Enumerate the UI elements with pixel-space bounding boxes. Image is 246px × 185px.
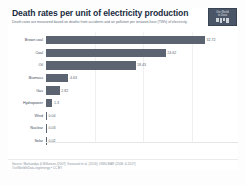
bar-value-label: 2.82	[61, 89, 68, 93]
category-label: Solar	[8, 139, 46, 143]
bar-value-label: 18.43	[137, 63, 146, 67]
category-label: Nuclear	[8, 126, 46, 130]
bar-value-label: 0.03	[48, 126, 55, 130]
chart-header: Death rates per unit of electricity prod…	[8, 8, 238, 32]
source-line-2[interactable]: OurWorldInData.org/energy • CC BY	[8, 166, 238, 170]
screenshot-root: Death rates per unit of electricity prod…	[0, 0, 246, 185]
category-label: Gas	[8, 89, 46, 93]
bar[interactable]	[46, 112, 47, 120]
bar-row[interactable]: Hydropower1.3	[8, 97, 238, 110]
bar[interactable]	[46, 99, 52, 107]
bar-row[interactable]: Oil18.43	[8, 59, 238, 72]
chart-footer: Source: Markandya & Wilkinson (2007); So…	[8, 159, 238, 170]
category-label: Hydropower	[8, 101, 46, 105]
chart-title: Death rates per unit of electricity prod…	[12, 8, 188, 18]
bar[interactable]	[46, 36, 205, 44]
category-label: Wind	[8, 114, 46, 118]
bar-value-label: 24.62	[167, 51, 176, 55]
category-label: Oil	[8, 63, 46, 67]
category-label: Brown coal	[8, 38, 46, 42]
bar-track: 4.63	[46, 72, 238, 85]
logo-bars-icon	[216, 18, 229, 24]
bar-value-label: 4.63	[70, 76, 77, 80]
chart-card: Death rates per unit of electricity prod…	[8, 8, 238, 170]
bar-track: 1.3	[46, 97, 238, 110]
bar-track: 32.72	[46, 34, 238, 47]
category-label: Coal	[8, 51, 46, 55]
bar[interactable]	[46, 61, 136, 69]
bar-row[interactable]: Coal24.62	[8, 47, 238, 60]
bar-track: 2.82	[46, 84, 238, 97]
bar[interactable]	[46, 74, 68, 82]
bar-value-label: 0.04	[48, 114, 55, 118]
footer-divider	[8, 159, 238, 160]
bar[interactable]	[46, 124, 47, 132]
bar-value-label: 32.72	[207, 38, 216, 42]
bar-value-label: 1.3	[54, 101, 59, 105]
our-world-in-data-logo[interactable]: Our World in Data	[208, 8, 237, 26]
bar-row[interactable]: Biomass4.63	[8, 72, 238, 85]
logo-line-2: in Data	[218, 14, 227, 17]
bar[interactable]	[46, 86, 60, 94]
bar-row[interactable]: Nuclear0.03	[8, 122, 238, 135]
chart-subtitle: Death rates are measured based on deaths…	[12, 20, 187, 25]
bar-track: 24.62	[46, 47, 238, 60]
category-label: Biomass	[8, 76, 46, 80]
bar-rows: Brown coal32.72Coal24.62Oil18.43Biomass4…	[8, 34, 238, 147]
bar-track: 0.04	[46, 110, 238, 123]
bar-track: 0.03	[46, 122, 238, 135]
plot-area: Brown coal32.72Coal24.62Oil18.43Biomass4…	[8, 32, 238, 150]
bar-track: 18.43	[46, 59, 238, 72]
bar-row[interactable]: Brown coal32.72	[8, 34, 238, 47]
axis-baseline	[46, 142, 238, 143]
bar[interactable]	[46, 49, 166, 57]
bar-row[interactable]: Wind0.04	[8, 110, 238, 123]
bar-row[interactable]: Gas2.82	[8, 84, 238, 97]
